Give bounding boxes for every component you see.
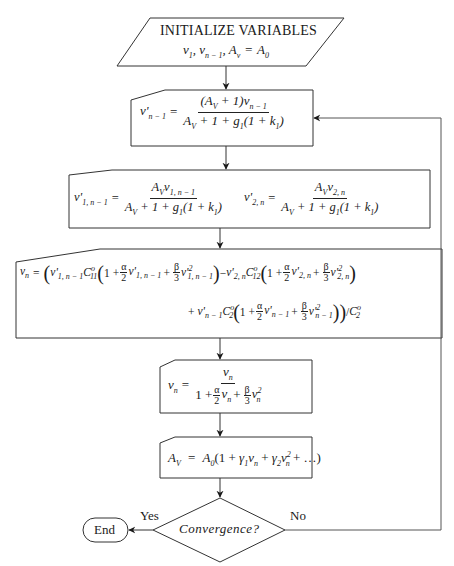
step1-equation: v'n − 1 = (AV + 1)vn − 1 AV + 1 + g1(1 +… xyxy=(140,94,286,131)
equals-sign: = xyxy=(244,42,253,57)
step5-rhs: A0(1 + γ1vn + γ2v2n + …) xyxy=(202,450,320,465)
equals-sign: = xyxy=(170,104,177,120)
init-heading: INITIALIZE VARIABLES xyxy=(160,23,317,39)
step3-line2: + v'n − 1Co2 ( 1 + α2 v'n − 1 + β3 v'2n … xyxy=(188,301,360,322)
step5-lhs: AV xyxy=(168,450,181,465)
step2b-lhs: v'2, n xyxy=(244,190,264,207)
init-vars: v1, vn − 1, Av=A0 xyxy=(183,42,269,60)
step4-equation: vn = vn 1 + α2 vn + β3 v2n xyxy=(168,365,262,406)
step5-equation: AV = A0(1 + γ1vn + γ2v2n + …) xyxy=(168,450,321,468)
step1-lhs: v'n − 1 xyxy=(140,103,166,121)
step2a-fraction: AVv1, n − 1 AV + 1 + g1(1 + k1) xyxy=(123,180,224,216)
end-label: End xyxy=(94,522,115,538)
flowchart-canvas xyxy=(0,0,454,566)
step2-equation-a: v'1, n − 1 = AVv1, n − 1 AV + 1 + g1(1 +… xyxy=(74,180,224,216)
step4-fraction: vn 1 + α2 vn + β3 v2n xyxy=(193,365,262,406)
step3-line1: vn = ( v'1, n − 1Co11 ( 1 + α2 v'1, n − … xyxy=(20,262,356,283)
decision-label: Convergence? xyxy=(179,521,260,537)
no-label: No xyxy=(290,508,306,524)
equals-sign: = xyxy=(112,191,119,206)
step1-fraction: (AV + 1)vn − 1 AV + 1 + g1(1 + k1) xyxy=(181,94,286,131)
equals-sign: = xyxy=(268,191,275,206)
step2a-lhs: v'1, n − 1 xyxy=(74,190,108,207)
yes-label: Yes xyxy=(140,508,159,524)
step4-lhs: vn xyxy=(168,377,178,395)
step2b-fraction: AVv2, n AV + 1 + g1(1 + k1) xyxy=(279,180,380,216)
step2-equation-b: v'2, n = AVv2, n AV + 1 + g1(1 + k1) xyxy=(244,180,381,216)
